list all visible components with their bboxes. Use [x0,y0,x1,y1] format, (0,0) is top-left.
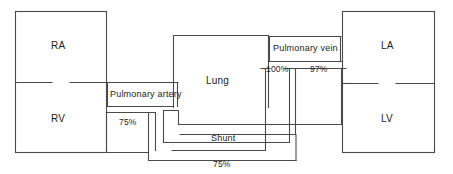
label-saturation-shunt-return: 75% [213,160,231,169]
label-saturation-left-atrium: 97% [310,65,328,74]
label-saturation-pulmonary-vein: 100% [266,65,289,74]
label-pulmonary-vein: Pulmonary vein [273,44,338,53]
label-right-atrium: RA [51,41,65,51]
lung-outline [174,36,269,108]
shunt-inner-wall [164,111,279,125]
diagram-linework [0,0,453,174]
saturation-97-right-wall [279,69,342,125]
label-pulmonary-artery: Pulmonary artery [110,90,182,99]
label-saturation-pulmonary-artery: 75% [119,118,137,127]
label-left-atrium: LA [381,41,394,51]
label-right-ventricle: RV [51,114,65,124]
circulation-diagram: RA RV LA LV Lung Pulmonary artery Pulmon… [0,0,453,174]
label-shunt: Shunt [211,134,236,143]
label-left-ventricle: LV [381,114,393,124]
left-heart-outline [343,12,435,153]
label-lung: Lung [206,76,229,86]
